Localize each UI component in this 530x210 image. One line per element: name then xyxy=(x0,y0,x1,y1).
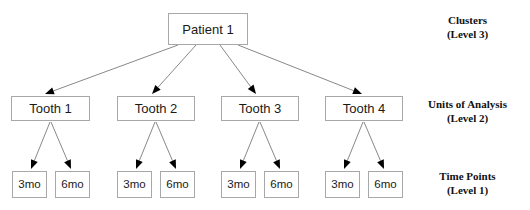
level-label-level-3: Clusters(Level 3) xyxy=(410,14,525,42)
connector-arrow xyxy=(136,122,155,169)
level-label-level-2: Units of Analysis(Level 2) xyxy=(410,98,525,126)
arrowhead-icon xyxy=(240,159,247,169)
node-label: 3mo xyxy=(331,179,353,191)
connector-line xyxy=(243,122,259,161)
time-point-node-t1-6mo: 6mo xyxy=(55,171,90,198)
connector-arrow xyxy=(260,122,280,169)
connector-arrow xyxy=(51,122,71,169)
time-point-node-t4-3mo: 3mo xyxy=(325,171,360,198)
arrowhead-icon xyxy=(248,85,256,94)
time-point-node-t2-6mo: 6mo xyxy=(160,171,195,198)
arrowhead-icon xyxy=(377,159,384,169)
node-label: Tooth 1 xyxy=(29,102,72,115)
connector-arrow xyxy=(45,45,178,94)
time-point-node-t3-3mo: 3mo xyxy=(221,171,256,198)
time-point-node-t1-3mo: 3mo xyxy=(12,171,47,198)
arrowhead-icon xyxy=(64,159,71,169)
time-point-node-t4-6mo: 6mo xyxy=(368,171,403,198)
level-label-number: (Level 3) xyxy=(410,28,525,42)
node-label: 3mo xyxy=(18,179,40,191)
level-label-number: (Level 1) xyxy=(410,184,525,198)
connector-line xyxy=(158,45,196,87)
connector-arrow xyxy=(31,122,50,169)
connector-line xyxy=(51,122,67,161)
connector-line xyxy=(238,45,354,91)
arrowhead-icon xyxy=(45,88,55,95)
connector-arrow xyxy=(152,45,196,94)
node-label: 6mo xyxy=(374,179,396,191)
connector-arrow xyxy=(364,122,384,169)
level-label-name: Clusters xyxy=(448,14,487,26)
connector-line xyxy=(53,45,178,91)
unit-node-tooth-1: Tooth 1 xyxy=(11,96,90,121)
arrowhead-icon xyxy=(344,159,351,169)
node-label: 3mo xyxy=(227,179,249,191)
connector-line xyxy=(139,122,155,161)
connector-arrow xyxy=(220,45,256,94)
node-label: 3mo xyxy=(123,179,145,191)
arrowhead-icon xyxy=(31,159,38,169)
level-label-level-1: Time Points(Level 1) xyxy=(410,170,525,198)
time-point-node-t2-3mo: 3mo xyxy=(117,171,152,198)
node-label: Tooth 4 xyxy=(343,102,386,115)
level-label-number: (Level 2) xyxy=(410,112,525,126)
arrowhead-icon xyxy=(152,85,161,94)
connector-arrow xyxy=(238,45,362,94)
arrowhead-icon xyxy=(352,87,362,94)
unit-node-tooth-2: Tooth 2 xyxy=(117,96,195,121)
arrowhead-icon xyxy=(136,159,143,169)
level-label-name: Units of Analysis xyxy=(428,98,507,110)
connector-arrow xyxy=(156,122,176,169)
hierarchy-diagram: Patient 1Tooth 1Tooth 2Tooth 3Tooth 43mo… xyxy=(0,0,530,210)
connector-arrow xyxy=(344,122,363,169)
arrowhead-icon xyxy=(273,159,280,169)
unit-node-tooth-4: Tooth 4 xyxy=(325,96,403,121)
unit-node-tooth-3: Tooth 3 xyxy=(221,96,299,121)
arrowhead-icon xyxy=(169,159,176,169)
connector-line xyxy=(220,45,251,87)
time-point-node-t3-6mo: 6mo xyxy=(264,171,299,198)
connector-line xyxy=(347,122,363,161)
connector-arrow xyxy=(240,122,259,169)
connector-line xyxy=(156,122,172,161)
node-label: Tooth 3 xyxy=(239,102,282,115)
connector-line xyxy=(260,122,276,161)
node-label: 6mo xyxy=(166,179,188,191)
node-label: 6mo xyxy=(270,179,292,191)
cluster-node-patient-1: Patient 1 xyxy=(168,13,248,45)
node-label: Patient 1 xyxy=(182,23,233,36)
node-label: Tooth 2 xyxy=(135,102,178,115)
connector-line xyxy=(34,122,50,161)
connector-line xyxy=(364,122,380,161)
node-label: 6mo xyxy=(61,179,83,191)
level-label-name: Time Points xyxy=(439,170,495,182)
